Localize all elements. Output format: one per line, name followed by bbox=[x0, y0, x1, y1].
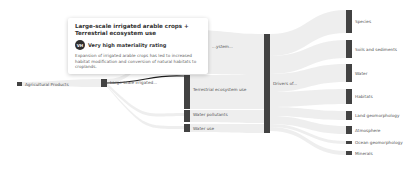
node-label: Land geomorphology bbox=[355, 113, 399, 118]
node-large-scale-irrigated[interactable] bbox=[101, 79, 107, 87]
node-habitats[interactable] bbox=[346, 89, 352, 104]
link-irrig-wateruse[interactable] bbox=[107, 86, 184, 129]
tooltip-description: Expansion of irrigated arable crops has … bbox=[75, 53, 201, 70]
tooltip-rating: Very high materiality rating bbox=[88, 42, 166, 48]
materiality-badge-icon: VH bbox=[75, 40, 85, 50]
node-water[interactable] bbox=[346, 64, 352, 82]
node-label: Drivers of... bbox=[273, 81, 297, 86]
link-drivers-habitats[interactable] bbox=[270, 89, 346, 107]
node-label: Ocean geomorphology bbox=[355, 140, 403, 145]
node-label: Water use bbox=[193, 126, 214, 131]
node-label: Habitats bbox=[355, 94, 373, 99]
node-species[interactable] bbox=[346, 10, 352, 33]
node-label: Agricultural Products bbox=[25, 82, 69, 87]
link-terrestrial-drivers[interactable] bbox=[190, 75, 264, 109]
node-land-geomorphology[interactable] bbox=[346, 111, 352, 120]
node-label: ...ystem... bbox=[212, 44, 233, 49]
node-label: Terrestrial ecosystem use bbox=[193, 87, 246, 92]
node-terrestrial-ecosystem-use[interactable] bbox=[184, 75, 190, 109]
tooltip-title: Large-scale irrigated arable crops + Ter… bbox=[75, 23, 201, 37]
node-label: Minerals bbox=[355, 151, 373, 156]
node-minerals[interactable] bbox=[346, 151, 352, 155]
node-water-use[interactable] bbox=[184, 124, 190, 132]
node-label: Large-scale irrigated... bbox=[110, 80, 157, 85]
node-atmosphere[interactable] bbox=[346, 126, 352, 134]
node-label: Species bbox=[355, 19, 371, 24]
node-label: Soils and sediments bbox=[355, 47, 397, 52]
node-agricultural-products[interactable] bbox=[17, 82, 22, 86]
node-water-pollutants[interactable] bbox=[184, 110, 190, 122]
node-label: Atmosphere bbox=[355, 128, 380, 133]
node-drivers[interactable] bbox=[264, 34, 270, 133]
node-soils-and-sediments[interactable] bbox=[346, 40, 352, 58]
node-label: Water pollutants bbox=[193, 112, 228, 117]
node-label: Water bbox=[355, 71, 367, 76]
link-tooltip: Large-scale irrigated arable crops + Ter… bbox=[68, 18, 208, 74]
node-ocean-geomorphology[interactable] bbox=[346, 141, 352, 144]
